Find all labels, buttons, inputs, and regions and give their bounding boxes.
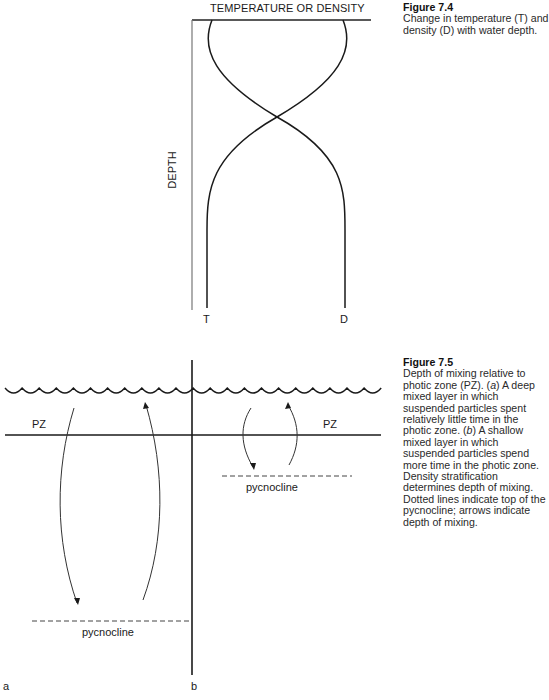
panel-a-label: a bbox=[3, 680, 9, 692]
caption-part-3: ) A shallow mixed layer in which suspend… bbox=[403, 424, 546, 527]
panel-b-down-arrow bbox=[243, 408, 253, 467]
panel-a-pz-label: PZ bbox=[32, 418, 46, 430]
temperature-curve bbox=[208, 20, 345, 308]
panel-a-up-arrowhead bbox=[143, 402, 149, 409]
diagram-canvas bbox=[0, 0, 549, 700]
figure-7-4-caption-text: Change in temperature (T) and density (D… bbox=[403, 12, 548, 35]
panel-b-pz-label: PZ bbox=[323, 418, 337, 430]
fig74-frame bbox=[192, 20, 371, 310]
panel-b-label: b bbox=[191, 680, 197, 692]
panel-a-down-arrowhead bbox=[74, 598, 80, 605]
figure-7-4-caption: Figure 7.4 Change in temperature (T) and… bbox=[403, 2, 549, 36]
panel-a-pycnocline-label: pycnocline bbox=[82, 626, 134, 638]
water-surface-waves bbox=[5, 388, 381, 393]
panel-b-down-arrowhead bbox=[250, 463, 256, 470]
panel-a-down-arrow bbox=[60, 408, 77, 603]
figure-7-5-caption: Figure 7.5 Depth of mixing relative to p… bbox=[403, 357, 549, 528]
temperature-curve-label: T bbox=[203, 313, 210, 325]
panel-b-pycnocline-label: pycnocline bbox=[246, 481, 298, 493]
density-curve bbox=[207, 20, 347, 308]
density-curve-label: D bbox=[340, 313, 348, 325]
panel-b-up-arrowhead bbox=[285, 402, 291, 409]
